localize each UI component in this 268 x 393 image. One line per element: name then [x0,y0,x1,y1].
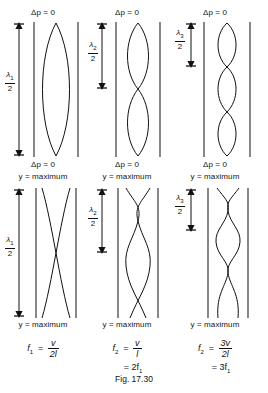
lambda-denominator-3: 2 [175,42,184,51]
lambda-subscript-1b: 1 [10,240,13,246]
lambda-denominator-2: 2 [88,54,97,63]
displacement-antinode-label-bottom-2: y = maximum [84,320,170,329]
displacement-antinode-label-bottom-3: y = maximum [172,320,258,329]
wavelength-label-1: λ1 2 [0,70,20,93]
displacement-antinode-label-top-3: y = maximum [172,172,258,181]
displacement-wave-panel-1 [30,188,82,318]
displacement-wave-panel-3 [200,188,256,318]
harmonic-column-fundamental: Δp = 0 λ1 2 Δp [0,0,86,370]
frequency-relation-text-3: = 3f [212,362,227,372]
wavelength-label-2b: λ2 2 [83,205,103,228]
lambda-denominator-3b: 2 [175,207,184,216]
frequency-subscript-3: 2 [200,349,203,355]
harmonic-column-third: Δp = 0 λ3 [172,0,258,370]
frequency-numerator-3: 3v [219,338,233,349]
lambda-subscript-3: 3 [180,33,183,39]
figure-caption: Fig. 17.30 [0,374,268,384]
pressure-wave-panel-3 [200,22,256,157]
pressure-node-label-bottom-2: Δp = 0 [84,160,170,169]
equals-sign-2: = [121,343,129,353]
wavelength-label-3b: λ3 2 [170,193,190,216]
lambda-denominator-1: 2 [5,84,14,93]
wavelength-label-3: λ3 2 [170,28,190,51]
wavelength-label-2: λ2 2 [83,40,103,63]
displacement-antinode-label-bottom: y = maximum [0,320,86,329]
pressure-wave-panel-2 [112,22,164,157]
frequency-subscript-1: 1 [30,349,33,355]
pressure-node-label-bottom: Δp = 0 [0,160,86,169]
frequency-numerator-2: v [133,338,142,349]
lambda-denominator-1b: 2 [5,249,14,258]
displacement-antinode-label-top: y = maximum [0,172,86,181]
frequency-relation-text-2: = 2f [124,362,139,372]
lambda-subscript-3b: 3 [180,198,183,204]
lambda-denominator-2b: 2 [88,219,97,228]
frequency-equation-1: f1 = v 2l [0,338,86,359]
lambda-subscript-1: 1 [10,75,13,81]
lambda-subscript-2b: 2 [93,210,96,216]
frequency-subscript-2: 2 [115,349,118,355]
standing-wave-figure: Δp = 0 λ1 2 Δp [0,0,268,393]
harmonic-column-second: Δp = 0 λ2 2 [84,0,170,370]
pressure-node-label-bottom-3: Δp = 0 [172,160,258,169]
equals-sign-1: = [36,343,44,353]
frequency-equation-2: f2 = v l [84,338,170,359]
pressure-wave-panel-1 [30,22,82,157]
wavelength-label-1b: λ1 2 [0,235,20,258]
frequency-denominator-3: 2l [219,349,233,359]
frequency-relation-subscript-3: 1 [227,368,230,374]
pressure-node-label-top-2: Δp = 0 [84,8,170,17]
lambda-subscript-2: 2 [93,45,96,51]
frequency-equation-3: f2 = 3v 2l [172,338,258,359]
frequency-denominator-2: l [133,349,142,359]
displacement-antinode-label-top-2: y = maximum [84,172,170,181]
equals-sign-3: = [206,343,214,353]
frequency-denominator-1: 2l [48,349,59,359]
pressure-node-label-top-3: Δp = 0 [172,8,258,17]
pressure-node-label-top: Δp = 0 [0,8,86,17]
frequency-numerator-1: v [48,338,59,349]
displacement-wave-panel-2 [112,188,164,318]
frequency-relation-subscript-2: 1 [139,368,142,374]
